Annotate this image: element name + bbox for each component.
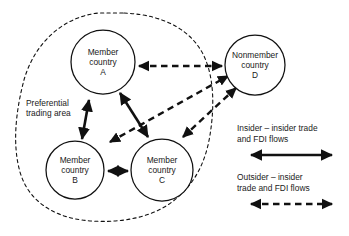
- diagram-canvas: Member country A Member country B Member…: [0, 0, 349, 236]
- member-country-c-line2: country: [148, 165, 176, 175]
- member-country-b-line3: B: [72, 175, 78, 185]
- legend-insider-insider-line1: Insider – insider trade: [237, 123, 318, 133]
- diagram-root: Member country A Member country B Member…: [0, 0, 349, 236]
- member-country-a[interactable]: Member country A: [71, 30, 135, 94]
- legend-outsider-insider: Outsider – insider trade and FDI flows: [237, 172, 332, 204]
- flow-legend: Insider – insider trade and FDI flows Ou…: [237, 123, 332, 204]
- nonmember-country-d-line2: country: [241, 60, 269, 70]
- member-country-a-line3: A: [100, 67, 106, 77]
- legend-insider-insider: Insider – insider trade and FDI flows: [237, 123, 332, 155]
- member-country-c-line1: Member: [147, 155, 178, 165]
- member-country-c-line3: C: [159, 175, 165, 185]
- nonmember-country-d-line1: Nonmember: [232, 50, 278, 60]
- member-country-a-line1: Member: [88, 47, 119, 57]
- member-country-a-line2: country: [89, 57, 117, 67]
- legend-insider-insider-line2: and FDI flows: [237, 134, 288, 144]
- preferential-trading-area-label: Preferential trading area: [26, 98, 71, 118]
- edge-a-b-line: [82, 100, 89, 139]
- member-country-b-line1: Member: [60, 155, 91, 165]
- nonmember-country-d[interactable]: Nonmember country D: [225, 35, 285, 95]
- legend-outsider-insider-line2: trade and FDI flows: [237, 183, 310, 193]
- edge-a-c-line: [120, 93, 148, 137]
- area-label-line2: trading area: [26, 108, 71, 118]
- member-country-c[interactable]: Member country C: [131, 139, 193, 201]
- member-country-b-line2: country: [61, 165, 89, 175]
- member-country-b[interactable]: Member country B: [46, 141, 104, 199]
- area-label-line1: Preferential: [26, 98, 69, 108]
- legend-outsider-insider-line1: Outsider – insider: [237, 172, 303, 182]
- nonmember-country-d-line3: D: [252, 70, 258, 80]
